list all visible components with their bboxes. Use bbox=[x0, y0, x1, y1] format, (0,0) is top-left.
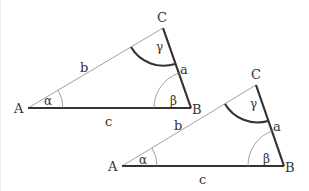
vertex-label-C: C bbox=[157, 10, 167, 25]
angle-label-gamma: γ bbox=[250, 97, 257, 111]
side-label-a: a bbox=[180, 62, 188, 77]
angle-label-alpha: α bbox=[139, 153, 147, 167]
side-label-c: c bbox=[105, 114, 112, 129]
angle-label-gamma: γ bbox=[156, 40, 163, 54]
side-label-b: b bbox=[80, 60, 88, 75]
diagram-svg: A B C b c a α β γ A B C b c a α β γ bbox=[0, 0, 309, 191]
vertex-label-A: A bbox=[13, 101, 24, 116]
side-label-a: a bbox=[273, 119, 281, 134]
side-label-b: b bbox=[174, 118, 182, 133]
alpha-arc bbox=[58, 90, 63, 108]
gamma-arc bbox=[131, 47, 175, 66]
angle-label-beta: β bbox=[263, 152, 270, 166]
vertex-label-C: C bbox=[251, 67, 261, 82]
triangle-1: A B C b c a α β γ bbox=[13, 10, 202, 129]
alpha-arc bbox=[152, 148, 157, 166]
gamma-arc bbox=[225, 104, 268, 122]
triangle-diagram: A B C b c a α β γ A B C b c a α β γ bbox=[0, 0, 309, 191]
vertex-label-B: B bbox=[285, 160, 295, 175]
vertex-label-B: B bbox=[192, 102, 202, 117]
angle-label-beta: β bbox=[170, 94, 177, 108]
vertex-label-A: A bbox=[107, 159, 118, 174]
angle-label-alpha: α bbox=[44, 94, 52, 108]
triangle-2: A B C b c a α β γ bbox=[107, 67, 295, 187]
side-label-c: c bbox=[199, 172, 206, 187]
